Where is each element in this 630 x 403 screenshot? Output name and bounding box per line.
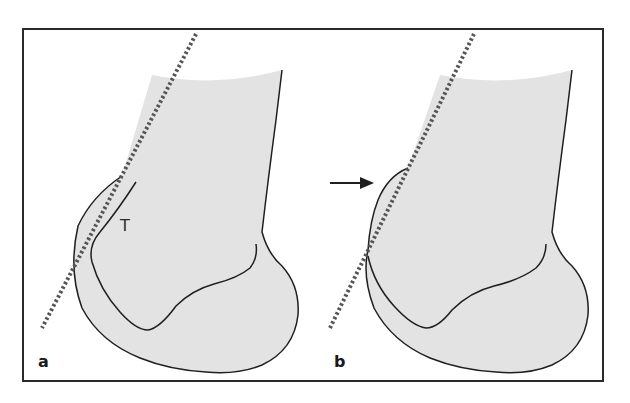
panel-label-a: a [38, 352, 49, 371]
panel-a-femur [42, 34, 298, 373]
panel-label-b: b [334, 352, 345, 371]
arrow-icon [330, 177, 374, 189]
tubercle-label: T [120, 216, 130, 235]
panel-b-femur [330, 34, 588, 373]
femur-diagram [0, 0, 630, 403]
